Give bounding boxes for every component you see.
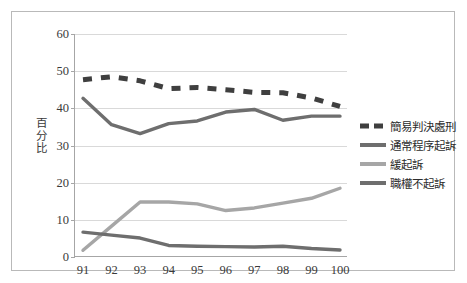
y-axis-tick-label: 40 bbox=[57, 101, 70, 116]
legend-item-label: 通常程序起訴 bbox=[390, 137, 456, 153]
series-line bbox=[83, 188, 340, 250]
legend-swatch-icon bbox=[360, 173, 386, 192]
x-axis-tick-label: 100 bbox=[331, 263, 350, 278]
legend-item-label: 簡易判決處刑 bbox=[390, 118, 456, 134]
y-axis-tick-label: 10 bbox=[57, 212, 70, 227]
x-axis-tick-label: 91 bbox=[77, 263, 90, 278]
y-axis-tick-label: 20 bbox=[57, 175, 70, 190]
chart-legend: 簡易判決處刑通常程序起訴緩起訴職權不起訴 bbox=[360, 116, 464, 192]
x-axis-tick-label: 96 bbox=[220, 263, 233, 278]
legend-swatch-icon bbox=[360, 154, 386, 173]
y-axis-tick-label: 30 bbox=[57, 138, 70, 153]
legend-swatch-icon bbox=[360, 135, 386, 154]
series-line bbox=[83, 77, 340, 107]
x-axis-tick-label: 93 bbox=[134, 263, 147, 278]
legend-item[interactable]: 通常程序起訴 bbox=[360, 135, 464, 154]
plot-area: 0102030405060 919293949596979899100 bbox=[74, 34, 347, 257]
series-line bbox=[83, 98, 340, 133]
chart-frame: 百 分 比 0102030405060 91929394959697989910… bbox=[11, 11, 455, 271]
y-axis-title-char-3: 比 bbox=[34, 142, 48, 155]
y-axis-title: 百 分 比 bbox=[34, 117, 48, 155]
series-lines bbox=[75, 34, 348, 257]
y-axis-tick-label: 0 bbox=[63, 250, 69, 265]
x-axis-tick-label: 98 bbox=[277, 263, 290, 278]
legend-swatch-icon bbox=[360, 116, 386, 135]
x-axis-tick-label: 95 bbox=[191, 263, 204, 278]
legend-item-label: 職權不起訴 bbox=[390, 175, 445, 191]
y-axis-tick-label: 50 bbox=[57, 64, 70, 79]
series-line bbox=[83, 232, 340, 250]
x-axis-tick-label: 97 bbox=[248, 263, 261, 278]
x-axis-tick-label: 94 bbox=[162, 263, 175, 278]
legend-item[interactable]: 職權不起訴 bbox=[360, 173, 464, 192]
x-axis-tick-label: 99 bbox=[305, 263, 318, 278]
y-axis-tick-mark bbox=[71, 257, 75, 258]
y-axis-tick-label: 60 bbox=[57, 27, 70, 42]
y-axis-title-char-1: 百 bbox=[34, 117, 48, 130]
legend-item-label: 緩起訴 bbox=[390, 156, 423, 172]
legend-item[interactable]: 簡易判決處刑 bbox=[360, 116, 464, 135]
x-axis-tick-label: 92 bbox=[105, 263, 118, 278]
y-axis-title-char-2: 分 bbox=[34, 130, 48, 143]
legend-item[interactable]: 緩起訴 bbox=[360, 154, 464, 173]
